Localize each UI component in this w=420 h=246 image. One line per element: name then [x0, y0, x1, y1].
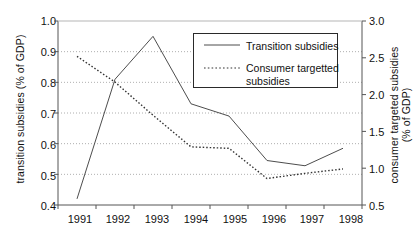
- legend-label-consumer-targetted-subsidies-line1: Consumer targetted: [246, 62, 339, 74]
- chart-container: transition subsidies (% of GDP) consumer…: [0, 0, 420, 246]
- legend-label-transition-subsidies: Transition subsidies: [246, 40, 338, 52]
- legend-label-consumer-targetted-subsidies-line2: subsidies: [246, 75, 290, 87]
